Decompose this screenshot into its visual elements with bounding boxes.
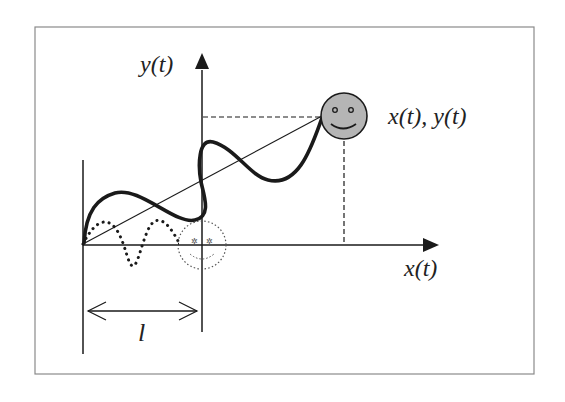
length-label: l	[138, 318, 145, 347]
position-label: x(t), y(t)	[387, 103, 467, 129]
svg-text:✲: ✲	[206, 237, 213, 246]
smiley-face-icon	[321, 93, 367, 139]
x-axis-label: x(t)	[403, 255, 437, 281]
svg-text:✲: ✲	[191, 237, 198, 246]
y-axis-arrow-icon	[195, 53, 209, 69]
dotted-wave	[83, 220, 178, 266]
y-axis-label: y(t)	[138, 51, 173, 77]
x-axis-arrow-icon	[423, 238, 439, 252]
diagram-canvas: ✲ ✲ y(t) x(t), y(t) x(t) l	[0, 0, 565, 402]
frame-border	[35, 27, 534, 374]
